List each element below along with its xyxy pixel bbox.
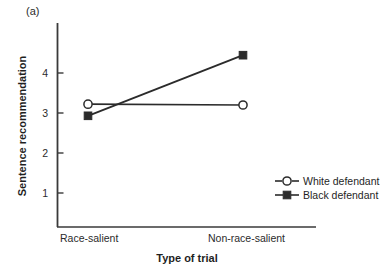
legend-label-black-defendant: Black defendant	[303, 188, 378, 202]
series-line-black-defendant	[88, 55, 243, 116]
figure-panel-a: (a) Sentence recommendation Type of tria…	[0, 0, 390, 274]
legend-label-white-defendant: White defendant	[303, 174, 379, 188]
data-point-white-non-race-salient	[239, 101, 247, 109]
data-point-white-race-salient	[84, 100, 92, 108]
data-point-black-race-salient	[84, 112, 92, 120]
filled-square-icon	[274, 188, 300, 202]
plot-area	[0, 0, 390, 274]
series-line-white-defendant	[88, 104, 243, 105]
data-point-black-non-race-salient	[239, 51, 247, 59]
open-circle-icon	[274, 174, 300, 188]
